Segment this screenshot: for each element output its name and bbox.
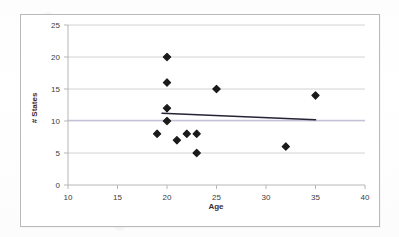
data-point-marker — [183, 130, 190, 137]
x-axis-ticks — [68, 185, 365, 189]
x-tick-label: 10 — [64, 193, 73, 202]
y-tick-label: 15 — [51, 85, 60, 94]
data-point-marker — [312, 92, 319, 99]
y-tick-labels: 0510152025 — [51, 21, 60, 190]
data-point-marker — [163, 53, 170, 60]
x-tick-label: 15 — [113, 193, 122, 202]
y-tick-label: 20 — [51, 53, 60, 62]
x-tick-label: 35 — [311, 193, 320, 202]
data-point-marker — [193, 149, 200, 156]
data-point-marker — [163, 117, 170, 124]
trendline — [162, 113, 315, 119]
scatter-chart: 0510152025 10152025303540 Age # States — [0, 0, 399, 237]
y-axis-ticks — [64, 25, 68, 185]
y-tick-label: 25 — [51, 21, 60, 30]
y-axis-title: # States — [30, 92, 39, 123]
data-point-marker — [163, 79, 170, 86]
data-point-marker — [282, 143, 289, 150]
y-tick-label: 5 — [56, 149, 61, 158]
data-point-marker — [213, 85, 220, 92]
y-tick-label: 0 — [56, 181, 61, 190]
data-point-marker — [173, 137, 180, 144]
x-tick-label: 25 — [212, 193, 221, 202]
x-axis-title: Age — [208, 202, 224, 211]
data-points — [154, 53, 320, 156]
x-tick-label: 40 — [361, 193, 370, 202]
data-point-marker — [154, 130, 161, 137]
data-point-marker — [163, 105, 170, 112]
y-tick-label: 10 — [51, 117, 60, 126]
x-tick-label: 20 — [163, 193, 172, 202]
x-tick-labels: 10152025303540 — [64, 193, 370, 202]
data-point-marker — [193, 130, 200, 137]
x-tick-label: 30 — [262, 193, 271, 202]
